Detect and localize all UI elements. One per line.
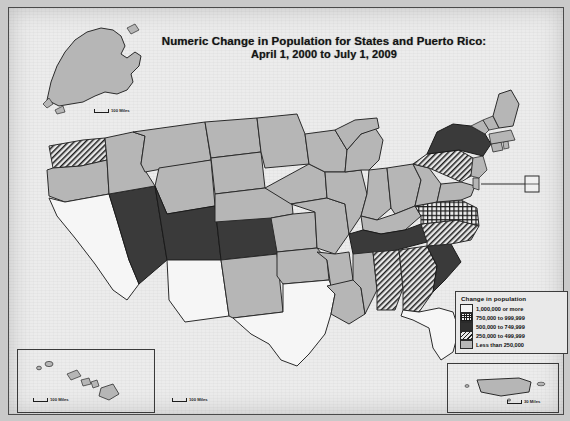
page-title: Numeric Change in Population for States … [159,34,489,61]
legend-label: 250,000 to 499,999 [476,333,525,339]
legend-leader-line [481,176,539,192]
state-minnesota [257,114,309,168]
puerto-rico-inset-frame [447,363,559,413]
map-page: Numeric Change in Population for States … [0,0,570,421]
state-maryland [437,182,475,202]
legend-swatch-less-than-250000 [460,340,473,350]
legend-heading: Change in population [461,295,564,302]
scale-bar-glyph [94,109,109,113]
title-line-1: Numeric Change in Population for States … [159,34,489,48]
legend-row: 250,000 to 499,999 [460,332,564,340]
state-newjersey [471,156,487,178]
legend-label: 750,000 to 999,999 [476,315,525,321]
state-newmexico [221,254,283,318]
legend-label: 1,000,000 or more [476,306,523,312]
legend-row: 1,000,000 or more [460,305,564,313]
title-line-2: April 1, 2000 to July 1, 2009 [159,48,489,61]
scale-bar-label: 30 Miles [524,399,540,404]
legend-label: 500,000 to 749,999 [476,324,525,330]
state-arizona [167,260,229,322]
scanned-sheet: Numeric Change in Population for States … [8,7,564,415]
scale-bar-label: 100 Miles [50,397,69,402]
scale-bar-glyph [507,400,522,404]
scale-bar-hawaii: 100 Miles [33,397,69,402]
legend-row: 750,000 to 999,999 [460,314,564,322]
scale-bar-glyph [33,398,48,402]
legend-label: Less than 250,000 [476,342,524,348]
scale-bar-puerto-rico: 30 Miles [507,399,540,404]
state-northdakota [205,118,261,158]
state-southdakota [211,152,265,194]
scale-bar-glyph [172,398,187,402]
hawaii-inset-frame [17,349,155,413]
legend-row: 500,000 to 749,999 [460,323,564,331]
scale-bar-label: 100 Miles [189,397,208,402]
map-legend: Change in population 1,000,000 or more 7… [455,291,568,354]
state-alabama [373,250,403,310]
state-kansas [271,212,317,252]
scale-bar-alaska: 100 Miles [94,108,130,113]
state-georgia [399,246,437,312]
state-delaware [473,178,479,190]
scale-bar-main: 100 Miles [172,397,208,402]
state-florida [401,308,459,360]
scale-bar-label: 100 Miles [111,108,130,113]
legend-row: Less than 250,000 [460,341,564,349]
state-massachusetts [489,130,515,144]
state-maine [493,90,519,128]
inset-alaska [43,24,141,114]
